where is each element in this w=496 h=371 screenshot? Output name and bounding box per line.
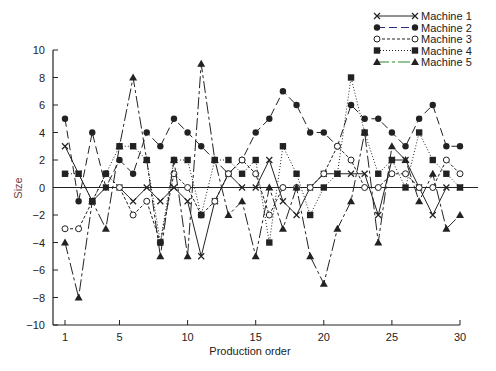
filled-circle-marker-icon [144, 129, 150, 135]
legend-item: Machine 4 [374, 45, 472, 57]
legend-item: Machine 5 [373, 56, 472, 68]
filled-square-marker-icon [280, 143, 286, 149]
filled-circle-marker-icon [361, 116, 367, 122]
filled-square-marker-icon [266, 239, 272, 245]
filled-square-marker-icon [252, 157, 258, 163]
filled-circle-marker-icon [321, 129, 327, 135]
filled-triangle-marker-icon [156, 252, 164, 259]
series-line [65, 146, 460, 242]
x-tick-label: 15 [250, 331, 262, 343]
filled-circle-marker-icon [103, 184, 109, 190]
legend-label: Machine 5 [421, 56, 472, 68]
filled-circle-marker-icon [402, 143, 408, 149]
open-circle-marker-icon [412, 36, 418, 42]
x-marker-icon [430, 212, 436, 218]
filled-triangle-marker-icon [320, 280, 328, 287]
filled-circle-marker-icon [307, 129, 313, 135]
filled-circle-marker-icon [62, 116, 68, 122]
legend-item: Machine 3 [374, 33, 472, 45]
series-machine-5 [61, 60, 464, 301]
filled-square-marker-icon [430, 157, 436, 163]
filled-circle-marker-icon [198, 143, 204, 149]
filled-circle-marker-icon [293, 102, 299, 108]
filled-circle-marker-icon [184, 129, 190, 135]
open-circle-marker-icon [307, 185, 313, 191]
x-axis-label: Production order [209, 345, 291, 357]
filled-triangle-marker-icon [197, 60, 205, 67]
open-circle-marker-icon [239, 157, 245, 163]
axes: −10−8−6−4−20246810151015202530 [26, 44, 478, 343]
x-marker-icon [198, 253, 204, 259]
filled-square-marker-icon [62, 171, 68, 177]
open-circle-marker-icon [212, 198, 218, 204]
filled-circle-marker-icon [266, 116, 272, 122]
open-circle-marker-icon [348, 157, 354, 163]
open-circle-marker-icon [116, 185, 122, 191]
y-tick-label: 2 [39, 154, 45, 166]
x-marker-icon [130, 198, 136, 204]
y-tick-label: 0 [39, 182, 45, 194]
filled-square-marker-icon [457, 184, 463, 190]
x-tick-label: 20 [318, 331, 330, 343]
filled-triangle-marker-icon [252, 252, 260, 259]
legend-label: Machine 4 [421, 45, 472, 57]
open-circle-marker-icon [253, 171, 259, 177]
filled-triangle-marker-icon [129, 74, 137, 81]
series-line [65, 146, 460, 256]
y-tick-label: 10 [33, 44, 45, 56]
filled-triangle-marker-icon [224, 211, 232, 218]
open-circle-marker-icon [416, 185, 422, 191]
open-circle-marker-icon [375, 185, 381, 191]
y-tick-label: 6 [39, 99, 45, 111]
filled-square-marker-icon [443, 171, 449, 177]
x-marker-icon [375, 212, 381, 218]
filled-triangle-marker-icon [75, 294, 83, 301]
y-tick-label: −2 [32, 209, 45, 221]
filled-circle-marker-icon [416, 116, 422, 122]
filled-circle-marker-icon [348, 102, 354, 108]
y-tick-label: −10 [26, 319, 45, 331]
filled-triangle-marker-icon [238, 197, 246, 204]
filled-circle-marker-icon [130, 171, 136, 177]
filled-square-marker-icon [375, 171, 381, 177]
x-marker-icon [157, 198, 163, 204]
open-circle-marker-icon [334, 143, 340, 149]
filled-square-marker-icon [412, 47, 418, 53]
x-tick-label: 1 [62, 331, 68, 343]
filled-square-marker-icon [198, 212, 204, 218]
legend-item: Machine 2 [374, 22, 472, 34]
x-tick-label: 30 [454, 331, 466, 343]
filled-circle-marker-icon [443, 143, 449, 149]
open-circle-marker-icon [76, 226, 82, 232]
y-tick-label: −4 [32, 237, 45, 249]
filled-triangle-marker-icon [306, 252, 314, 259]
filled-triangle-marker-icon [429, 170, 437, 177]
filled-square-marker-icon [416, 129, 422, 135]
filled-circle-marker-icon [457, 143, 463, 149]
y-tick-label: 4 [39, 127, 45, 139]
open-circle-marker-icon [374, 36, 380, 42]
open-circle-marker-icon [389, 171, 395, 177]
filled-triangle-marker-icon [374, 239, 382, 246]
filled-triangle-marker-icon [456, 211, 464, 218]
open-circle-marker-icon [430, 185, 436, 191]
filled-circle-marker-icon [375, 116, 381, 122]
filled-triangle-marker-icon [347, 197, 355, 204]
filled-circle-marker-icon [75, 198, 81, 204]
open-circle-marker-icon [266, 212, 272, 218]
filled-circle-marker-icon [171, 116, 177, 122]
filled-triangle-marker-icon [61, 239, 69, 246]
filled-triangle-marker-icon [102, 225, 110, 232]
filled-square-marker-icon [130, 143, 136, 149]
filled-square-marker-icon [225, 157, 231, 163]
x-marker-icon [62, 143, 68, 149]
filled-square-marker-icon [374, 47, 380, 53]
line-chart: −10−8−6−4−20246810151015202530 Machine 1… [0, 0, 496, 371]
x-tick-label: 5 [116, 331, 122, 343]
filled-triangle-marker-icon [279, 225, 287, 232]
series-line [65, 91, 460, 201]
x-tick-label: 10 [181, 331, 193, 343]
series-line [65, 64, 460, 298]
open-circle-marker-icon [144, 198, 150, 204]
open-circle-marker-icon [321, 171, 327, 177]
